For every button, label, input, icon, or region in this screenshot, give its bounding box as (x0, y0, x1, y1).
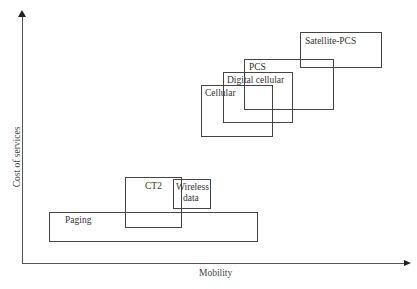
y-axis-arrow-icon (18, 10, 26, 17)
box-wireless-data-label-1: Wireless (176, 182, 209, 193)
x-axis (22, 263, 405, 264)
box-pcs-label: PCS (249, 62, 266, 73)
box-ct2-label: CT2 (145, 181, 162, 192)
x-axis-arrow-icon (404, 260, 411, 266)
y-axis (22, 16, 23, 263)
box-paging-label: Paging (65, 215, 91, 226)
box-satellite-pcs-label: Satellite-PCS (305, 36, 356, 47)
box-wireless-data-label-2: data (183, 193, 199, 204)
y-axis-label: Cost of services (12, 112, 22, 202)
x-axis-label: Mobility (199, 268, 232, 278)
